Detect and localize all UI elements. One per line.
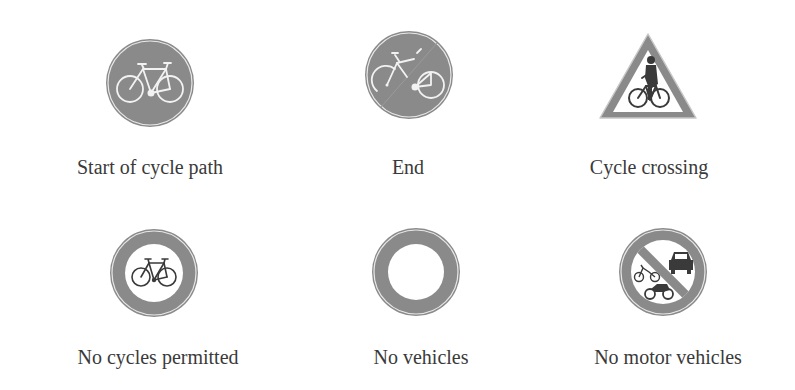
bicycle-prohibited-icon (104, 223, 204, 323)
sign-cycle-crossing (598, 28, 698, 128)
sign-no-vehicles (366, 222, 466, 322)
no-entry-ring-icon (366, 222, 466, 322)
cyclist-warning-icon (598, 28, 698, 128)
label-no-vehicles: No vehicles (301, 346, 541, 368)
label-end: End (288, 156, 528, 178)
bicycle-icon (100, 33, 200, 133)
label-start-of-cycle-path: Start of cycle path (30, 156, 270, 178)
car-and-motorcycle-prohibited-icon (613, 222, 713, 322)
sign-no-cycles-permitted (104, 223, 204, 323)
sign-end-of-cycle-path (359, 25, 459, 125)
bicycle-slashed-icon (359, 25, 459, 125)
label-no-cycles-permitted: No cycles permitted (38, 346, 278, 368)
label-cycle-crossing: Cycle crossing (529, 156, 769, 178)
sign-no-motor-vehicles (613, 222, 713, 322)
label-no-motor-vehicles: No motor vehicles (548, 346, 788, 368)
sign-start-of-cycle-path (100, 33, 200, 133)
